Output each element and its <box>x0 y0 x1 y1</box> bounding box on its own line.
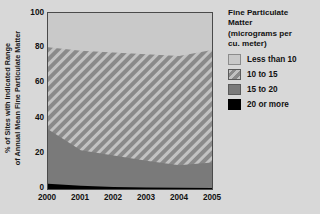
x-tick-2004: 2004 <box>163 193 195 202</box>
y-tick-40: 40 <box>22 113 44 122</box>
light-gray-swatch-icon <box>228 54 241 65</box>
legend-item-20-or-more[interactable]: 20 or more <box>228 98 320 112</box>
legend-item-10-to-15[interactable]: 10 to 15 <box>228 68 320 82</box>
chart-figure: % of Sites with Indicated Range of Annua… <box>0 0 320 214</box>
legend-item-less-than-10[interactable]: Less than 10 <box>228 53 320 67</box>
legend-title-line-1: Fine Particulate <box>228 8 320 18</box>
legend-item-15-to-20[interactable]: 15 to 20 <box>228 83 320 97</box>
y-tick-20: 20 <box>22 148 44 157</box>
chart-legend: Fine Particulate Matter (micrograms per … <box>228 8 320 112</box>
legend-label-less-than-10: Less than 10 <box>247 55 297 64</box>
black-swatch-icon <box>228 99 241 110</box>
x-tick-2000: 2000 <box>31 193 63 202</box>
y-axis-label-line-1: % of Sites with Indicated Range <box>3 31 13 165</box>
x-tick-2005: 2005 <box>196 193 228 202</box>
y-tick-0: 0 <box>22 183 44 192</box>
x-tick-2003: 2003 <box>130 193 162 202</box>
y-tick-100: 100 <box>22 8 44 17</box>
x-tick-2002: 2002 <box>97 193 129 202</box>
x-tick-2001: 2001 <box>64 193 96 202</box>
legend-title: Fine Particulate Matter (micrograms per … <box>228 8 320 50</box>
legend-title-line-3: (micrograms per <box>228 29 320 39</box>
y-tick-80: 80 <box>22 42 44 51</box>
stacked-area-svg <box>48 13 212 189</box>
legend-label-10-to-15: 10 to 15 <box>247 70 278 79</box>
y-tick-60: 60 <box>22 77 44 86</box>
y-axis-label: % of Sites with Indicated Range of Annua… <box>0 0 26 196</box>
legend-label-15-to-20: 15 to 20 <box>247 85 278 94</box>
hatched-swatch-icon <box>228 69 241 80</box>
legend-label-20-or-more: 20 or more <box>247 100 289 109</box>
legend-title-line-4: cu. meter) <box>228 39 320 49</box>
plot-area <box>47 12 213 190</box>
medium-gray-swatch-icon <box>228 84 241 95</box>
legend-title-line-2: Matter <box>228 18 320 28</box>
